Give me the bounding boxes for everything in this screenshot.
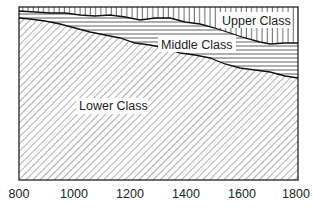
x-tick-label: 1600	[228, 187, 256, 201]
lower-class-label: Lower Class	[79, 99, 148, 113]
x-tick-label: 1200	[116, 187, 144, 201]
upper-class-label: Upper Class	[222, 14, 291, 28]
x-tick-label: 1800	[282, 187, 310, 201]
stacked-area-chart: Upper Class Middle Class Lower Class 800…	[0, 0, 313, 212]
middle-class-label: Middle Class	[161, 38, 233, 52]
x-tick-label: 1000	[60, 187, 88, 201]
x-tick-label: 800	[9, 187, 30, 201]
x-axis: 800 1000 1200 1400 1600 1800	[9, 187, 310, 201]
x-tick-label: 1400	[172, 187, 200, 201]
